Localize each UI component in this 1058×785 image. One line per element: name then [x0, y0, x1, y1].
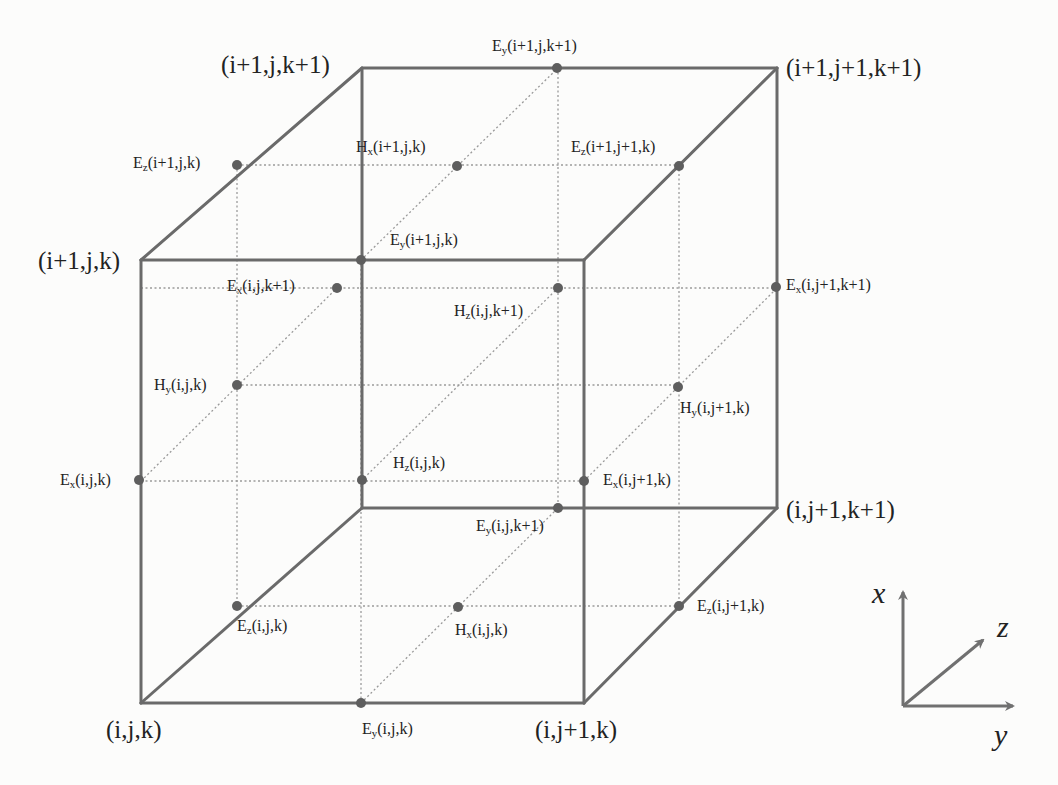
yee-cell-diagram: (i+1,j,k+1) (i+1,j+1,k+1) (i+1,j,k) (i,j…: [0, 0, 1058, 785]
field-label-hz-i-j-k: Hz(i,j,k): [393, 455, 445, 473]
field-label-ex-i-j1-k: Ex(i,j+1,k): [603, 472, 671, 490]
x-axis-label: x: [872, 578, 885, 608]
node-ey-i-j-k: [356, 698, 366, 708]
node-hz-i-j-k1: [553, 283, 563, 293]
field-label-ey-i-j-k: Ey(i,j,k): [362, 721, 413, 739]
field-label-ex-i-j1-k1: Ex(i,j+1,k+1): [786, 277, 871, 295]
field-label-ez-i1-j1-k: Ez(i+1,j+1,k): [571, 139, 655, 157]
node-ey-i1-j-k: [356, 255, 366, 265]
node-ex-i-j1-k: [579, 476, 589, 486]
node-hy-i-j-k: [232, 380, 242, 390]
node-ex-i-j-k1: [332, 283, 342, 293]
field-label-ex-i-j-k1: Ex(i,j,k+1): [227, 278, 295, 296]
field-label-ey-i1-j-k1: Ey(i+1,j,k+1): [492, 38, 577, 56]
node-hz-i-j-k: [357, 475, 367, 485]
corner-label-i-j1-k1: (i,j+1,k+1): [786, 497, 895, 522]
field-label-ex-i-j-k: Ex(i,j,k): [60, 472, 111, 490]
z-axis-arrow: [903, 640, 983, 706]
node-hx-i1-j-k: [452, 161, 462, 171]
node-hx-i-j-k: [453, 602, 463, 612]
field-label-ez-i-j-k: Ez(i,j,k): [237, 618, 287, 636]
corner-label-i-j-k: (i,j,k): [106, 717, 162, 742]
node-ez-i-j-k: [232, 601, 242, 611]
node-ex-i-j-k: [134, 475, 144, 485]
node-ey-i-j-k1: [553, 503, 563, 513]
field-label-ey-i1-j-k: Ey(i+1,j,k): [390, 232, 458, 250]
corner-label-i1-j-k1: (i+1,j,k+1): [221, 52, 330, 77]
node-ez-i1-j-k: [232, 160, 242, 170]
field-label-hy-i-j-k: Hy(i,j,k): [154, 377, 207, 395]
node-ez-i1-j1-k: [674, 161, 684, 171]
field-label-hy-i-j1-k: Hy(i,j+1,k): [680, 400, 750, 418]
z-axis-label: z: [997, 612, 1009, 642]
field-label-hx-i-j-k: Hx(i,j,k): [455, 622, 508, 640]
node-ey-i1-j-k1: [552, 63, 562, 73]
field-label-ez-i-j1-k: Ez(i,j+1,k): [697, 598, 764, 616]
node-hy-i-j1-k: [673, 382, 683, 392]
node-ez-i-j1-k: [674, 601, 684, 611]
field-label-hz-i-j-k1: Hz(i,j,k+1): [454, 303, 523, 321]
corner-label-i-j1-k: (i,j+1,k): [535, 717, 617, 742]
y-axis-label: y: [994, 720, 1007, 750]
field-label-ez-i1-j-k: Ez(i+1,j,k): [133, 155, 200, 173]
corner-label-i1-j1-k1: (i+1,j+1,k+1): [786, 55, 921, 80]
field-label-hx-i1-j-k: Hx(i+1,j,k): [356, 139, 426, 157]
field-label-ey-i-j-k1: Ey(i,j,k+1): [476, 518, 544, 536]
corner-label-i1-j-k: (i+1,j,k): [38, 248, 120, 273]
node-ex-i-j1-k1: [771, 282, 781, 292]
